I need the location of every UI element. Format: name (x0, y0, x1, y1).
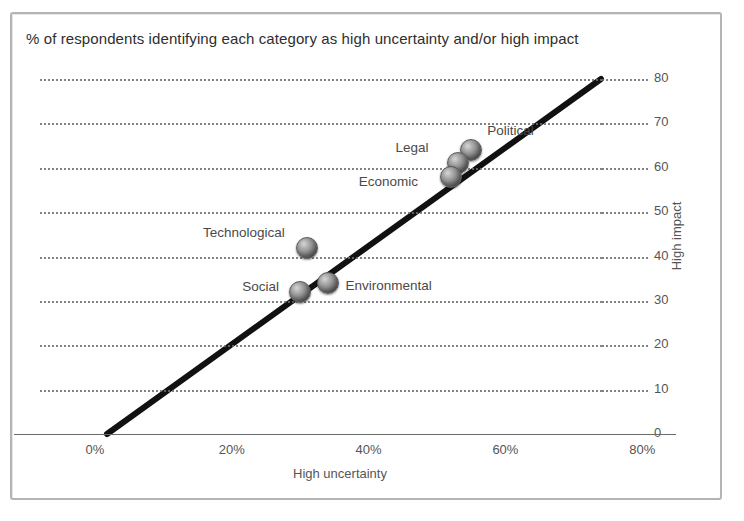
ytick-label-40: 40 (654, 248, 668, 263)
ytick-dash-80 (602, 79, 648, 81)
gridline-50 (40, 212, 602, 214)
plot-area: 01020304050607080 PoliticalLegalEconomic… (40, 70, 602, 434)
xtick-label-60: 60% (492, 442, 518, 457)
gridline-60 (40, 168, 602, 170)
ytick-label-20: 20 (654, 336, 668, 351)
data-point-label-political: Political (487, 123, 534, 138)
xtick-label-40: 40% (356, 442, 382, 457)
x-axis-line (14, 434, 676, 435)
data-point-label-legal: Legal (396, 140, 429, 155)
ytick-dash-50 (602, 212, 648, 214)
data-point-label-technological: Technological (203, 225, 285, 240)
ytick-label-10: 10 (654, 381, 668, 396)
data-point-label-economic: Economic (359, 174, 418, 189)
gridline-30 (40, 301, 602, 303)
ytick-label-80: 80 (654, 70, 668, 85)
chart-title: % of respondents identifying each catego… (26, 30, 579, 47)
gridline-10 (40, 390, 602, 392)
xtick-label-0: 0% (86, 442, 105, 457)
gridline-20 (40, 345, 602, 347)
ytick-dash-70 (602, 123, 648, 125)
ytick-dash-10 (602, 390, 648, 392)
ytick-dash-20 (602, 345, 648, 347)
y-axis-label: High impact (669, 202, 684, 271)
ytick-label-30: 30 (654, 292, 668, 307)
ytick-dash-60 (602, 168, 648, 170)
ytick-label-50: 50 (654, 203, 668, 218)
data-point-environmental[interactable] (317, 272, 339, 294)
xtick-label-20: 20% (219, 442, 245, 457)
xtick-label-80: 80% (629, 442, 655, 457)
ytick-dash-30 (602, 301, 648, 303)
data-point-technological[interactable] (296, 237, 318, 259)
gridline-40 (40, 257, 602, 259)
data-point-economic[interactable] (440, 166, 462, 188)
data-point-social[interactable] (289, 281, 311, 303)
ytick-label-0: 0 (654, 425, 661, 440)
ytick-label-70: 70 (654, 114, 668, 129)
gridline-80 (40, 79, 602, 81)
data-point-label-environmental: Environmental (346, 278, 432, 293)
chart-screenshot: % of respondents identifying each catego… (0, 0, 744, 521)
data-point-label-social: Social (242, 279, 279, 294)
x-axis-label: High uncertainty (293, 466, 387, 481)
ytick-dash-40 (602, 257, 648, 259)
ytick-label-60: 60 (654, 159, 668, 174)
